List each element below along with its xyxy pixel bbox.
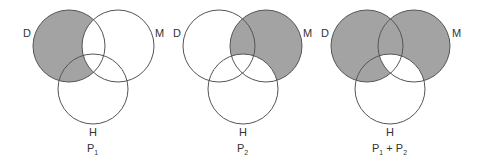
label-h: H bbox=[239, 126, 247, 138]
caption-letter: P bbox=[237, 142, 244, 154]
caption-p1: P1 bbox=[87, 142, 98, 156]
venn-panel-p1-plus-p2: D M H P1 + P2 bbox=[321, 10, 461, 156]
label-h: H bbox=[386, 126, 394, 138]
caption-p2: P2 bbox=[237, 142, 248, 156]
label-m: M bbox=[303, 27, 312, 39]
caption-p1-plus-p2: P1 + P2 bbox=[372, 142, 407, 156]
label-d: D bbox=[321, 27, 329, 39]
label-h: H bbox=[89, 126, 97, 138]
venn-panel-p2: D M H P2 bbox=[173, 10, 312, 156]
caption-subscript: 2 bbox=[244, 149, 248, 156]
label-m: M bbox=[155, 27, 164, 39]
caption-subscript-2: 2 bbox=[403, 149, 407, 156]
caption-letter: P bbox=[372, 142, 379, 154]
venn-diagram-figure: D M H P1 D M H P2 D M H P1 + P2 bbox=[0, 0, 484, 162]
caption-plus: + P bbox=[383, 142, 403, 154]
venn-panel-p1: D M H P1 bbox=[23, 10, 164, 156]
label-m: M bbox=[452, 27, 461, 39]
caption-subscript: 1 bbox=[94, 149, 98, 156]
label-d: D bbox=[23, 27, 31, 39]
label-d: D bbox=[173, 27, 181, 39]
caption-letter: P bbox=[87, 142, 94, 154]
